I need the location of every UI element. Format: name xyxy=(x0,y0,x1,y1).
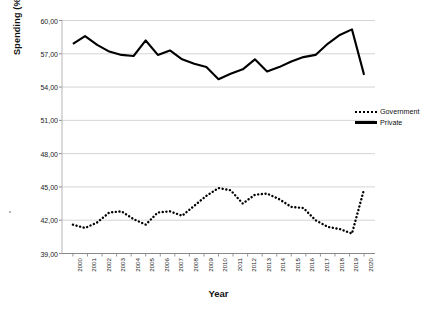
axis-lines xyxy=(62,21,375,254)
gridlines xyxy=(59,21,375,254)
x-axis-ticks xyxy=(73,254,364,257)
data-series-layer xyxy=(73,29,364,233)
dotted-line-icon xyxy=(355,108,377,115)
legend-label-government: Government xyxy=(380,107,420,116)
x-axis-title: Year xyxy=(62,288,375,299)
series-line-government xyxy=(73,188,364,233)
series-line-private xyxy=(73,29,364,79)
legend-entry-private: Private xyxy=(355,117,420,128)
chart-container: Spending (%) 39,0042,0045,0048,0051,0054… xyxy=(0,0,437,310)
legend-label-private: Private xyxy=(380,118,402,127)
plot-area xyxy=(0,0,437,310)
chart-legend: Government Private xyxy=(355,106,420,128)
legend-entry-government: Government xyxy=(355,106,420,117)
solid-line-icon xyxy=(355,119,377,126)
